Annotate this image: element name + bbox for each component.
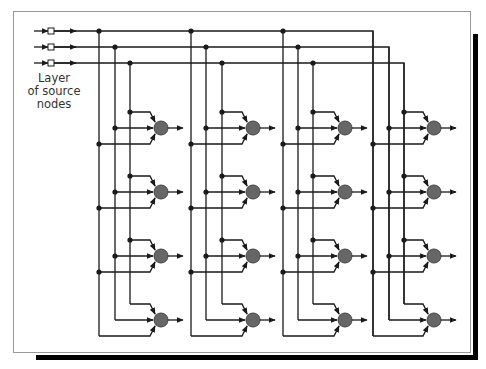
junction-dot xyxy=(280,205,285,210)
neuron-node xyxy=(338,121,352,135)
junction-dot xyxy=(310,173,315,178)
junction-dot xyxy=(203,125,208,130)
junction-dot xyxy=(295,253,300,258)
junction-dot xyxy=(295,125,300,130)
junction-dot xyxy=(401,109,406,114)
junction-dot xyxy=(280,269,285,274)
junction-dot xyxy=(310,60,315,65)
junction-dot xyxy=(112,189,117,194)
junction-dot xyxy=(370,269,375,274)
neuron-node xyxy=(154,185,168,199)
junction-dot xyxy=(203,189,208,194)
neuron-node xyxy=(154,313,168,327)
neuron-node xyxy=(338,313,352,327)
shadow-right xyxy=(473,34,478,360)
neuron-node xyxy=(427,249,441,263)
neuron-node xyxy=(246,249,260,263)
junction-dot xyxy=(401,237,406,242)
junction-dot xyxy=(112,44,117,49)
junction-dot xyxy=(295,44,300,49)
source-node xyxy=(48,60,54,66)
lattice-network-diagram xyxy=(0,0,486,369)
junction-dot xyxy=(219,60,224,65)
junction-dot xyxy=(295,189,300,194)
junction-dot xyxy=(96,28,101,33)
source-layer-label: Layer of source nodes xyxy=(18,72,90,111)
junction-dot xyxy=(203,44,208,49)
junction-dot xyxy=(370,141,375,146)
junction-dot xyxy=(127,237,132,242)
junction-dot xyxy=(127,60,132,65)
neuron-node xyxy=(427,185,441,199)
junction-dot xyxy=(203,253,208,258)
shadow-bottom xyxy=(36,355,478,360)
neuron-node xyxy=(427,121,441,135)
junction-dot xyxy=(280,28,285,33)
junction-dot xyxy=(188,28,193,33)
junction-dot xyxy=(310,237,315,242)
junction-dot xyxy=(188,269,193,274)
junction-dot xyxy=(401,173,406,178)
neuron-node xyxy=(338,185,352,199)
neuron-node xyxy=(154,121,168,135)
source-node xyxy=(48,44,54,50)
junction-dot xyxy=(127,173,132,178)
junction-dot xyxy=(127,109,132,114)
neuron-node xyxy=(427,313,441,327)
junction-dot xyxy=(96,205,101,210)
junction-dot xyxy=(188,141,193,146)
neuron-node xyxy=(246,121,260,135)
neuron-node xyxy=(246,313,260,327)
caption-line-3: nodes xyxy=(18,98,90,111)
junction-dot xyxy=(188,205,193,210)
junction-dot xyxy=(219,109,224,114)
junction-dot xyxy=(112,125,117,130)
junction-dot xyxy=(96,269,101,274)
neuron-node xyxy=(246,185,260,199)
junction-dot xyxy=(219,237,224,242)
junction-dot xyxy=(386,189,391,194)
junction-dot xyxy=(386,253,391,258)
junction-dot xyxy=(96,141,101,146)
junction-dot xyxy=(280,141,285,146)
neuron-node xyxy=(338,249,352,263)
junction-dot xyxy=(310,109,315,114)
junction-dot xyxy=(112,253,117,258)
source-node xyxy=(48,28,54,34)
junction-dot xyxy=(370,205,375,210)
neuron-node xyxy=(154,249,168,263)
junction-dot xyxy=(219,173,224,178)
junction-dot xyxy=(386,125,391,130)
